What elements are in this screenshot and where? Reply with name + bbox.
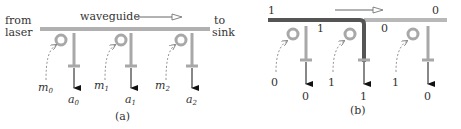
- modulator-input-2: 1: [392, 76, 399, 89]
- dashed-input-arrow-icon: [396, 41, 407, 72]
- ring-icon: [56, 35, 66, 45]
- detector-output-2: 0: [424, 90, 431, 103]
- detector-output-0: 0: [302, 90, 309, 103]
- m1-label: m1: [94, 79, 109, 93]
- dashed-input-arrow-icon: [333, 41, 344, 72]
- a2-label: a2: [186, 93, 198, 107]
- ring-icon: [288, 29, 298, 39]
- modulator-b0: 0 0: [271, 26, 312, 103]
- panel-b: 1 0 1 0 0 0 1 1: [268, 4, 447, 117]
- m0-label: m0: [38, 81, 53, 95]
- dashed-input-arrow-icon: [276, 41, 287, 72]
- ring-icon: [176, 35, 186, 45]
- ring-icon: [345, 29, 355, 39]
- direction-arrow-icon: [335, 7, 383, 13]
- ring-icon: [408, 29, 418, 39]
- waveguide-lit-path: [268, 20, 364, 62]
- waveguide: [40, 27, 210, 31]
- segment-value-1: 1: [317, 22, 324, 35]
- caption-a: (a): [115, 110, 130, 123]
- output-value: 0: [432, 4, 439, 17]
- modulator-0: m0 a0: [38, 33, 80, 107]
- ring-icon: [116, 35, 126, 45]
- dashed-input-arrow-icon: [166, 45, 175, 80]
- dashed-input-arrow-icon: [105, 45, 115, 80]
- direction-arrow-icon: [136, 14, 182, 20]
- a1-label: a1: [125, 93, 136, 107]
- m2-label: m2: [155, 79, 170, 93]
- segment-value-2: 0: [381, 22, 388, 35]
- dashed-input-arrow-icon: [46, 45, 56, 80]
- laser-label: laser: [5, 26, 33, 39]
- figure: from laser waveguide to sink m0 a0 m1: [0, 0, 461, 129]
- waveguide-label: waveguide: [80, 10, 140, 23]
- waveguide-unlit: [364, 18, 447, 22]
- sink-label: sink: [212, 26, 235, 39]
- panel-a: from laser waveguide to sink m0 a0 m1: [5, 10, 235, 123]
- caption-b: (b): [350, 104, 366, 117]
- modulator-2: m2 a2: [155, 33, 198, 107]
- modulator-input-1: 1: [328, 76, 335, 89]
- modulator-input-0: 0: [271, 76, 278, 89]
- modulator-1: m1 a1: [94, 33, 137, 107]
- detector-output-1: 1: [360, 90, 367, 103]
- modulator-b2: 1 0: [392, 26, 434, 103]
- a0-label: a0: [68, 93, 80, 107]
- input-value: 1: [268, 4, 275, 17]
